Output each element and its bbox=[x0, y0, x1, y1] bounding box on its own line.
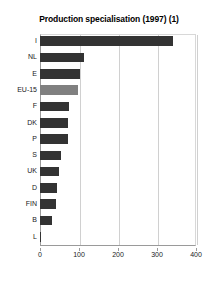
bar-row bbox=[40, 116, 196, 131]
bar-nl bbox=[40, 53, 84, 63]
y-label-uk: UK bbox=[0, 164, 37, 179]
bar-row bbox=[40, 34, 196, 49]
chart-title: Production specialisation (1997) (1) bbox=[0, 14, 218, 24]
y-label-eu-15: EU-15 bbox=[0, 83, 37, 98]
bar-d bbox=[40, 183, 57, 193]
y-label-s: S bbox=[0, 148, 37, 163]
bar-row bbox=[40, 67, 196, 82]
bar-uk bbox=[40, 167, 59, 177]
bar-row bbox=[40, 148, 196, 163]
bar-row bbox=[40, 164, 196, 179]
bar-e bbox=[40, 69, 80, 79]
y-axis-category-labels: INLEEU-15FDKPSUKDFINBL bbox=[0, 34, 37, 246]
bar-p bbox=[40, 134, 68, 144]
bar-s bbox=[40, 151, 61, 161]
bar-row bbox=[40, 50, 196, 65]
y-label-e: E bbox=[0, 67, 37, 82]
x-tick-label-400: 400 bbox=[190, 251, 202, 258]
bar-row bbox=[40, 181, 196, 196]
y-label-p: P bbox=[0, 132, 37, 147]
bar-row bbox=[40, 83, 196, 98]
bar-row bbox=[40, 197, 196, 212]
bar-i bbox=[40, 36, 173, 46]
x-tick-label-0: 0 bbox=[38, 251, 42, 258]
y-label-i: I bbox=[0, 34, 37, 49]
bar-b bbox=[40, 216, 52, 226]
bar-series bbox=[40, 34, 196, 246]
bar-row bbox=[40, 213, 196, 228]
y-label-b: B bbox=[0, 213, 37, 228]
bar-row bbox=[40, 132, 196, 147]
y-label-f: F bbox=[0, 99, 37, 114]
x-tick-label-300: 300 bbox=[151, 251, 163, 258]
y-label-d: D bbox=[0, 181, 37, 196]
x-axis-ticks: 0100200300400 bbox=[0, 248, 218, 262]
bar-fin bbox=[40, 199, 56, 209]
chart-figure: Production specialisation (1997) (1) INL… bbox=[0, 0, 218, 289]
bar-eu-15 bbox=[40, 85, 78, 95]
gridline-x-400 bbox=[197, 35, 198, 245]
x-tick-label-100: 100 bbox=[73, 251, 85, 258]
bar-f bbox=[40, 102, 69, 112]
bar-row bbox=[40, 99, 196, 114]
y-label-nl: NL bbox=[0, 50, 37, 65]
y-label-dk: DK bbox=[0, 116, 37, 131]
y-label-fin: FIN bbox=[0, 197, 37, 212]
y-label-l: L bbox=[0, 230, 37, 245]
x-tick-label-200: 200 bbox=[112, 251, 124, 258]
bar-row bbox=[40, 230, 196, 245]
bar-dk bbox=[40, 118, 68, 128]
bar-l bbox=[40, 232, 41, 242]
